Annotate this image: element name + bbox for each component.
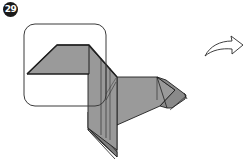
curved-arrow-icon <box>205 36 243 56</box>
origami-diagram <box>0 0 248 165</box>
